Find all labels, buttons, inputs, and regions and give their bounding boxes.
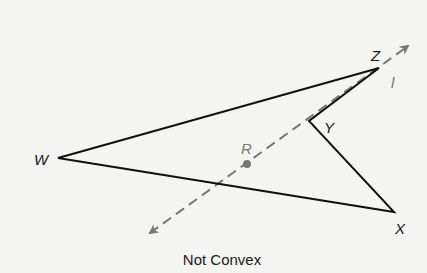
line-label-l: l [391,74,395,91]
figure-canvas: W Z Y X R l Not Convex [0,0,427,273]
vertex-label-y: Y [324,119,335,136]
figure-caption: Not Convex [183,251,262,268]
vertex-label-z: Z [370,47,381,64]
vertex-label-x: X [394,220,406,237]
vertex-label-w: W [34,151,50,168]
point-r [243,160,251,168]
non-convex-polygon-diagram: W Z Y X R l Not Convex [0,0,427,273]
line-l [150,46,408,233]
polygon-wzyx [58,68,394,212]
point-label-r: R [241,140,252,157]
